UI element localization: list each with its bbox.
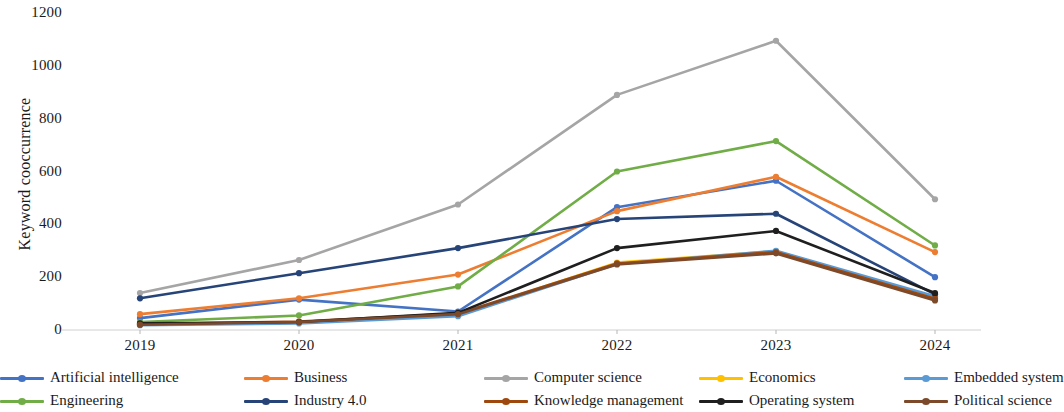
data-point xyxy=(296,270,302,276)
data-point xyxy=(932,290,938,296)
legend-swatch-icon xyxy=(484,395,528,407)
data-point xyxy=(773,174,779,180)
legend-swatch-icon xyxy=(699,372,743,384)
data-point xyxy=(773,211,779,217)
data-point xyxy=(614,245,620,251)
x-axis-tick-label: 2023 xyxy=(736,337,816,354)
legend-label: Operating system xyxy=(748,393,854,408)
legend-label: Computer science xyxy=(533,370,642,385)
x-axis-tick-label: 2022 xyxy=(577,337,657,354)
y-axis-tick-label: 600 xyxy=(10,163,62,180)
y-axis-tick-label: 400 xyxy=(10,215,62,232)
data-point xyxy=(614,168,620,174)
data-point xyxy=(773,228,779,234)
legend-label: Business xyxy=(293,370,347,385)
plot-area: Keyword cooccurrence 0200400600800100012… xyxy=(0,0,981,366)
x-axis-tick-label: 2021 xyxy=(418,337,498,354)
legend-item[interactable]: Industry 4.0 xyxy=(244,393,484,408)
y-axis-tick-label: 1000 xyxy=(10,57,62,74)
x-axis-tick-label: 2020 xyxy=(259,337,339,354)
data-point xyxy=(455,245,461,251)
legend-label: Artificial intelligence xyxy=(49,370,179,385)
legend-swatch-icon xyxy=(699,395,743,407)
legend-item[interactable]: Embedded system xyxy=(904,370,1064,385)
data-point xyxy=(614,208,620,214)
data-point xyxy=(614,216,620,222)
legend-swatch-icon xyxy=(244,372,288,384)
legend-label: Engineering xyxy=(49,393,123,408)
series-line xyxy=(140,181,935,318)
data-point xyxy=(137,311,143,317)
data-point xyxy=(773,138,779,144)
data-point xyxy=(455,201,461,207)
data-point xyxy=(773,250,779,256)
legend-item[interactable]: Computer science xyxy=(484,370,699,385)
data-point xyxy=(137,290,143,296)
data-point xyxy=(455,271,461,277)
series-line xyxy=(140,253,935,324)
legend-item[interactable]: Economics xyxy=(699,370,904,385)
data-point xyxy=(137,295,143,301)
legend-label: Embedded system xyxy=(953,370,1064,385)
data-point xyxy=(614,261,620,267)
data-point xyxy=(614,92,620,98)
legend-item[interactable]: Political science xyxy=(904,393,1064,408)
legend-swatch-icon xyxy=(0,395,44,407)
legend-item[interactable]: Operating system xyxy=(699,393,904,408)
y-axis-tick-label: 800 xyxy=(10,110,62,127)
legend-swatch-icon xyxy=(904,395,948,407)
y-axis-tick-label: 0 xyxy=(10,321,62,338)
data-point xyxy=(296,312,302,318)
legend-item[interactable]: Business xyxy=(244,370,484,385)
data-point xyxy=(773,38,779,44)
series-engineering xyxy=(137,138,938,325)
chart-legend: Artificial intelligenceBusinessComputer … xyxy=(0,366,981,412)
y-axis-tick-label: 1200 xyxy=(10,4,62,21)
data-point xyxy=(932,196,938,202)
data-point xyxy=(296,319,302,325)
series-artificial-intelligence xyxy=(137,178,938,322)
plot-canvas xyxy=(0,0,981,366)
data-point xyxy=(296,257,302,263)
data-point xyxy=(137,322,143,328)
y-axis-tick-label: 200 xyxy=(10,268,62,285)
x-axis-tick-label: 2019 xyxy=(100,337,180,354)
legend-swatch-icon xyxy=(0,372,44,384)
data-point xyxy=(932,242,938,248)
legend-label: Knowledge management xyxy=(533,393,684,408)
legend-label: Political science xyxy=(953,393,1052,408)
legend-item[interactable]: Artificial intelligence xyxy=(0,370,244,385)
series-computer-science xyxy=(137,38,938,296)
data-point xyxy=(932,274,938,280)
legend-item[interactable]: Engineering xyxy=(0,393,244,408)
data-point xyxy=(455,311,461,317)
series-line xyxy=(140,214,935,299)
data-point xyxy=(455,283,461,289)
series-business xyxy=(137,174,938,318)
legend-label: Industry 4.0 xyxy=(293,393,367,408)
x-axis-tick-label: 2024 xyxy=(895,337,975,354)
data-point xyxy=(932,297,938,303)
legend-swatch-icon xyxy=(904,372,948,384)
legend-item[interactable]: Knowledge management xyxy=(484,393,699,408)
legend-swatch-icon xyxy=(244,395,288,407)
series-line xyxy=(140,141,935,322)
legend-label: Economics xyxy=(748,370,816,385)
data-point xyxy=(932,249,938,255)
series-line xyxy=(140,231,935,323)
legend-swatch-icon xyxy=(484,372,528,384)
data-point xyxy=(296,295,302,301)
